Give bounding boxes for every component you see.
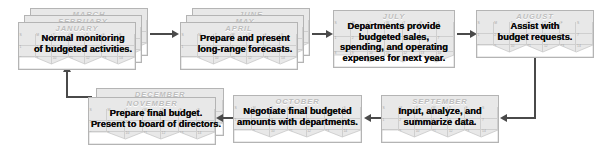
month-label: JANUARY	[19, 24, 135, 33]
step-july-text: Departments provide budgeted sales, spen…	[333, 21, 455, 63]
step-april-card[interactable]: JUNE SMTWTFS1234567891011121314 MAY SMTW…	[180, 8, 310, 70]
step-text-line: Input, analyze, and	[381, 106, 499, 117]
step-april-text: Prepare and present long-range forecasts…	[180, 33, 310, 54]
step-text-line: Normal monitoring	[18, 33, 148, 44]
step-text-line: Negotiate final budgeted	[233, 106, 362, 117]
step-august-card[interactable]: AUGUST SMTWTFS1234567891011121314 Assist…	[476, 10, 594, 58]
month-label: APRIL	[181, 24, 297, 33]
month-label: JULY	[334, 12, 454, 21]
step-text-line: expenses for next year.	[333, 53, 455, 64]
step-october-card[interactable]: OCTOBER SMTWTFS1234567891011121314 Negot…	[233, 95, 362, 143]
month-label: NOVEMBER	[89, 99, 215, 108]
step-september-text: Input, analyze, and summarize data.	[381, 106, 499, 127]
step-january-card[interactable]: MARCH SMTWTFS1234567891011121314 FEBRUAR…	[18, 8, 148, 70]
step-text-line: Assist with	[476, 21, 594, 32]
step-text-line: of budgeted activities.	[18, 44, 148, 55]
month-label: AUGUST	[477, 12, 593, 21]
step-january-text: Normal monitoring of budgeted activities…	[18, 33, 148, 54]
step-october-text: Negotiate final budgeted amounts with de…	[233, 106, 362, 127]
step-text-line: Departments provide	[333, 21, 455, 32]
step-july-card[interactable]: JULY SMTWTFS1234567891011121314 Departme…	[333, 10, 455, 68]
step-text-line: Prepare final budget.	[88, 108, 224, 119]
step-august-text: Assist with budget requests.	[476, 21, 594, 42]
month-label: OCTOBER	[234, 97, 361, 106]
step-text-line: budget requests.	[476, 32, 594, 43]
step-text-line: Prepare and present	[180, 33, 310, 44]
month-label: SEPTEMBER	[382, 97, 498, 106]
step-text-line: Present to board of directors.	[88, 119, 224, 130]
step-text-line: budgeted sales,	[333, 32, 455, 43]
step-november-card[interactable]: DECEMBER SMTWTFS1234567891011121314 NOVE…	[88, 88, 224, 145]
step-text-line: amounts with departments.	[233, 117, 362, 128]
budget-calendar-flowchart: MARCH SMTWTFS1234567891011121314 FEBRUAR…	[0, 0, 605, 152]
step-text-line: long-range forecasts.	[180, 44, 310, 55]
step-september-card[interactable]: SEPTEMBER SMTWTFS1234567891011121314 Inp…	[381, 95, 499, 143]
step-text-line: summarize data.	[381, 117, 499, 128]
step-text-line: spending, and operating	[333, 42, 455, 53]
step-november-text: Prepare final budget. Present to board o…	[88, 108, 224, 129]
